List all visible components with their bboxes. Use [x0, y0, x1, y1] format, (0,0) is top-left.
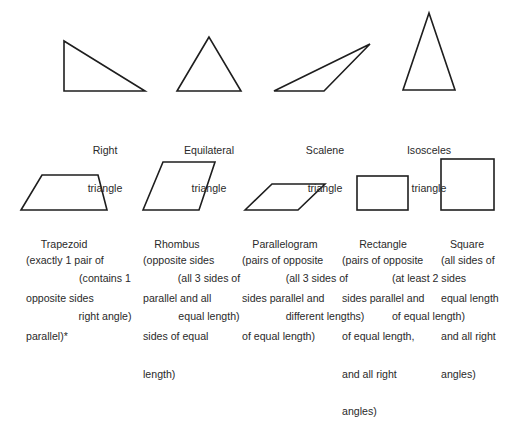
- right-triangle-name: Right triangle: [79, 119, 132, 220]
- desc-line: of equal length): [242, 330, 324, 343]
- desc-line: opposite sides: [26, 292, 104, 305]
- desc-line: angles): [441, 368, 499, 381]
- desc-line: and all right: [441, 330, 499, 343]
- right-triangle-shape: [64, 41, 145, 91]
- equilateral-triangle-shape: [177, 37, 241, 91]
- desc-line: parallel)*: [26, 330, 104, 343]
- desc-line: sides parallel and: [342, 292, 424, 305]
- name-line: Equilateral: [178, 144, 240, 157]
- trapezoid-description: (exactly 1 pair of opposite sides parall…: [26, 229, 104, 355]
- name-line: triangle: [286, 182, 365, 195]
- name-line: Isosceles: [392, 144, 466, 157]
- desc-line: (opposite sides: [143, 254, 214, 267]
- desc-line: and all right: [342, 368, 424, 381]
- rectangle-description: (pairs of opposite sides parallel and of…: [342, 229, 424, 421]
- name-line: triangle: [79, 182, 132, 195]
- isosceles-triangle-shape: [403, 13, 455, 90]
- desc-line: (pairs of opposite: [342, 254, 424, 267]
- desc-line: sides of equal: [143, 330, 214, 343]
- desc-line: (exactly 1 pair of: [26, 254, 104, 267]
- rhombus-description: (opposite sides parallel and all sides o…: [143, 229, 214, 393]
- desc-line: length): [143, 368, 214, 381]
- desc-line: (all sides of: [441, 254, 499, 267]
- name-line: triangle: [178, 182, 240, 195]
- desc-line: equal length: [441, 292, 499, 305]
- square-description: (all sides of equal length and all right…: [441, 229, 499, 393]
- name-line: triangle: [392, 182, 466, 195]
- desc-line: parallel and all: [143, 292, 214, 305]
- name-line: Right: [79, 144, 132, 157]
- name-line: Scalene: [286, 144, 365, 157]
- equilateral-triangle-name: Equilateral triangle: [178, 119, 240, 220]
- scalene-triangle-name: Scalene triangle: [286, 119, 365, 220]
- scalene-triangle-shape: [274, 44, 370, 91]
- desc-line: sides parallel and: [242, 292, 324, 305]
- desc-line: (pairs of opposite: [242, 254, 324, 267]
- parallelogram-description: (pairs of opposite sides parallel and of…: [242, 229, 324, 355]
- isosceles-triangle-name: Isosceles triangle: [392, 119, 466, 220]
- desc-line: of equal length,: [342, 330, 424, 343]
- desc-line: angles): [342, 405, 424, 418]
